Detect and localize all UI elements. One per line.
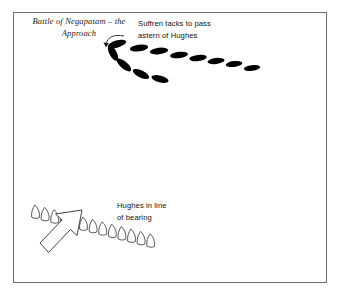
ship-french-4 — [170, 51, 189, 60]
diagram-page: Battle of Negapatam – the Approach Suffr… — [0, 0, 342, 295]
ship-british-1 — [32, 205, 40, 218]
ship-french-3 — [149, 47, 168, 56]
ship-french-8 — [244, 64, 261, 72]
ship-french-10 — [115, 56, 133, 73]
annotation-hughes: Hughes in line of bearing — [117, 200, 217, 224]
ship-french-5 — [189, 54, 207, 62]
page-title: Battle of Negapatam – the Approach — [24, 15, 134, 40]
ship-british-11 — [128, 229, 136, 242]
ship-french-6 — [207, 57, 225, 65]
ship-british-9 — [108, 224, 116, 237]
ship-british-10 — [118, 227, 126, 240]
ship-french-12 — [151, 74, 170, 85]
diagram-canvas — [0, 0, 342, 295]
ship-british-12 — [137, 231, 145, 244]
ship-british-2 — [41, 207, 49, 220]
ship-french-2 — [129, 43, 148, 52]
ship-british-7 — [89, 219, 97, 232]
ship-british-13 — [147, 234, 155, 247]
ship-british-3 — [51, 210, 59, 223]
annotation-suffren: Suffren tacks to pass astern of Hughes — [138, 18, 258, 42]
ship-british-8 — [99, 222, 107, 235]
ship-french-11 — [131, 67, 150, 81]
ship-french-7 — [225, 60, 242, 68]
